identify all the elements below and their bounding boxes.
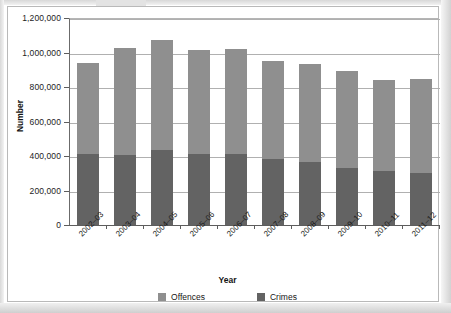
bar-segment-offences bbox=[410, 79, 432, 173]
bars-layer bbox=[69, 18, 439, 225]
bar-segment-offences bbox=[225, 49, 247, 154]
bar-column bbox=[410, 79, 432, 225]
x-axis-tick bbox=[217, 225, 218, 229]
x-axis-tick bbox=[365, 225, 366, 229]
bar-segment-offences bbox=[114, 48, 136, 155]
x-axis-tick bbox=[402, 225, 403, 229]
chart-legend: OffencesCrimes bbox=[8, 292, 447, 302]
bar-column bbox=[336, 71, 358, 225]
bar-column bbox=[225, 49, 247, 225]
legend-item: Offences bbox=[158, 292, 205, 302]
legend-label: Offences bbox=[171, 292, 205, 302]
page-edge-left bbox=[0, 0, 4, 313]
page-edge-right bbox=[441, 0, 451, 313]
bar-column bbox=[77, 63, 99, 225]
bar-segment-offences bbox=[77, 63, 99, 154]
bar-column bbox=[151, 40, 173, 225]
y-axis-tick-label: 1,200,000 bbox=[8, 13, 61, 23]
y-axis-tick-label: 200,000 bbox=[8, 186, 61, 196]
legend-label: Crimes bbox=[270, 292, 297, 302]
y-axis-tick-label: 400,000 bbox=[8, 151, 61, 161]
bar-segment-offences bbox=[299, 64, 321, 161]
y-axis-tick-label: 800,000 bbox=[8, 82, 61, 92]
screenshot-page: 1,200,0001,000,000800,000600,000400,0002… bbox=[0, 0, 451, 313]
y-axis-tick-label: 0 bbox=[8, 220, 61, 230]
bar-column bbox=[262, 61, 284, 225]
x-axis-tick bbox=[254, 225, 255, 229]
chart-frame: 1,200,0001,000,000800,000600,000400,0002… bbox=[7, 6, 439, 302]
page-edge-top bbox=[0, 0, 451, 5]
x-axis-tick bbox=[180, 225, 181, 229]
bar-segment-offences bbox=[151, 40, 173, 150]
x-axis-tick bbox=[143, 225, 144, 229]
bar-segment-offences bbox=[336, 71, 358, 168]
page-edge-bottom bbox=[0, 303, 451, 313]
y-axis-title: Number bbox=[15, 100, 25, 132]
x-axis-tick bbox=[106, 225, 107, 229]
legend-swatch-icon bbox=[158, 293, 166, 301]
bar-column bbox=[114, 48, 136, 225]
x-axis-tick bbox=[291, 225, 292, 229]
bar-segment-offences bbox=[262, 61, 284, 160]
legend-item: Crimes bbox=[257, 292, 297, 302]
legend-swatch-icon bbox=[257, 293, 265, 301]
bar-segment-offences bbox=[188, 50, 210, 154]
x-axis-tick bbox=[328, 225, 329, 229]
bar-column bbox=[299, 64, 321, 225]
bar-column bbox=[373, 80, 395, 225]
x-axis-tick bbox=[439, 225, 440, 229]
bar-segment-offences bbox=[373, 80, 395, 171]
bar-column bbox=[188, 50, 210, 225]
y-axis-tick-label: 1,000,000 bbox=[8, 48, 61, 58]
x-axis-title: Year bbox=[8, 275, 447, 285]
